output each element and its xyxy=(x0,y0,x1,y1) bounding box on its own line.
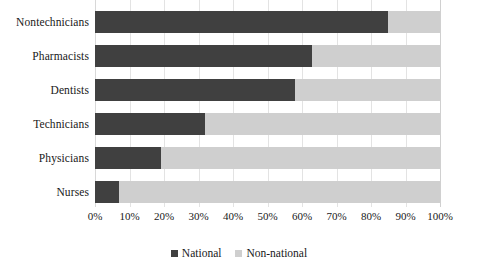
plot-area xyxy=(95,0,440,207)
bar-row xyxy=(95,113,440,135)
bar-segment-national-physicians xyxy=(95,147,161,169)
bar-segment-non-national-technicians xyxy=(205,113,440,135)
bar-row xyxy=(95,147,440,169)
bar-segment-non-national-nontechnicians xyxy=(388,11,440,33)
category-label-pharmacists: Pharmacists xyxy=(0,45,89,67)
bar-row xyxy=(95,79,440,101)
x-tick-label-40pct: 40% xyxy=(223,209,243,223)
category-label-physicians: Physicians xyxy=(0,147,89,169)
x-tick-label-50pct: 50% xyxy=(257,209,277,223)
category-label-nontechnicians: Nontechnicians xyxy=(0,11,89,33)
legend-swatch-icon xyxy=(235,250,242,257)
legend-label: Non-national xyxy=(246,246,307,260)
legend-label: National xyxy=(182,246,222,260)
legend-item-national[interactable]: National xyxy=(171,246,222,260)
bar-segment-national-dentists xyxy=(95,79,295,101)
legend-item-non-national[interactable]: Non-national xyxy=(235,246,307,260)
category-label-technicians: Technicians xyxy=(0,113,89,135)
stacked-bar-chart: NontechniciansPharmacistsDentistsTechnic… xyxy=(0,0,478,276)
bar-row xyxy=(95,11,440,33)
x-axis-tick-labels: 0%10%20%30%40%50%60%70%80%90%100% xyxy=(95,207,440,229)
gridline-100pct xyxy=(440,0,441,207)
x-tick-label-20pct: 20% xyxy=(154,209,174,223)
x-tick-label-60pct: 60% xyxy=(292,209,312,223)
x-tick-label-30pct: 30% xyxy=(188,209,208,223)
bar-segment-national-nontechnicians xyxy=(95,11,388,33)
category-axis-labels: NontechniciansPharmacistsDentistsTechnic… xyxy=(0,0,89,207)
bar-row xyxy=(95,45,440,67)
bar-segment-non-national-dentists xyxy=(295,79,440,101)
x-tick-label-90pct: 90% xyxy=(395,209,415,223)
chart-legend: NationalNon-national xyxy=(0,243,478,263)
bar-row xyxy=(95,181,440,203)
bar-segment-non-national-pharmacists xyxy=(312,45,440,67)
x-tick-label-80pct: 80% xyxy=(361,209,381,223)
x-tick-label-10pct: 10% xyxy=(119,209,139,223)
bar-segment-national-technicians xyxy=(95,113,205,135)
category-label-dentists: Dentists xyxy=(0,79,89,101)
bar-segment-non-national-physicians xyxy=(161,147,440,169)
category-label-nurses: Nurses xyxy=(0,181,89,203)
x-tick-label-70pct: 70% xyxy=(326,209,346,223)
x-tick-label-100pct: 100% xyxy=(427,209,453,223)
bar-segment-non-national-nurses xyxy=(119,181,440,203)
bar-rows xyxy=(95,0,440,207)
legend-swatch-icon xyxy=(171,250,178,257)
x-tick-label-0pct: 0% xyxy=(88,209,103,223)
bar-segment-national-nurses xyxy=(95,181,119,203)
bar-segment-national-pharmacists xyxy=(95,45,312,67)
